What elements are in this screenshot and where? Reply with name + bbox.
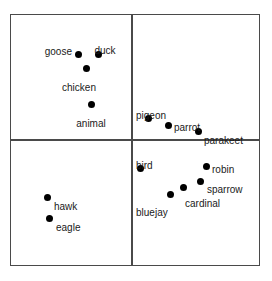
point-label-duck: duck [94, 45, 115, 56]
point-label-robin: robin [212, 164, 234, 175]
point-label-goose: goose [45, 46, 72, 57]
data-point-eagle [46, 215, 53, 222]
data-point-sparrow [197, 178, 204, 185]
data-point-bluejay [167, 191, 174, 198]
point-label-bluejay: bluejay [136, 207, 168, 218]
point-label-animal: animal [76, 118, 105, 129]
point-label-chicken: chicken [62, 82, 96, 93]
data-point-animal [88, 101, 95, 108]
point-label-bird: bird [136, 160, 153, 171]
point-label-pigeon: pigeon [136, 110, 166, 121]
data-point-robin [203, 163, 210, 170]
scatter-plot-figure: gooseduckchickenanimalpigeonparrotparake… [0, 0, 272, 281]
data-point-goose [75, 51, 82, 58]
point-label-cardinal: cardinal [185, 198, 220, 209]
data-point-parrot [165, 122, 172, 129]
data-point-hawk [44, 194, 51, 201]
point-label-hawk: hawk [54, 201, 77, 212]
data-point-cardinal [180, 184, 187, 191]
data-point-chicken [83, 65, 90, 72]
point-label-eagle: eagle [56, 222, 80, 233]
point-label-sparrow: sparrow [207, 184, 243, 195]
point-label-parakeet: parakeet [204, 135, 243, 146]
point-label-parrot: parrot [174, 122, 200, 133]
